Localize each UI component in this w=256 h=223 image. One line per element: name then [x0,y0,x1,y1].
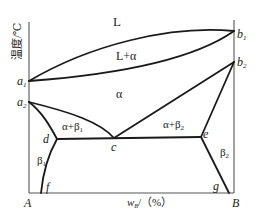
region-liquid-alpha: L+α [116,49,137,63]
corner-label-a: A [23,196,32,210]
point-a2-label: a2 [17,95,27,110]
point-g-label: g [213,179,219,193]
x-axis-label: wB/（%） [127,196,172,209]
region-alpha: α [116,87,123,101]
phase-diagram: 温度/℃ a1 a2 b1 b2 d c e f g L L+α α α+β1 … [0,0,256,223]
point-c-label: c [111,140,117,154]
y-axis-label: 温度/℃ [10,23,23,60]
point-f-label: f [46,180,51,194]
region-beta2: β2 [220,146,230,160]
corner-label-b: B [232,196,240,210]
point-a1-label: a1 [17,74,27,89]
point-e-label: e [203,127,209,141]
point-b2-label: b2 [237,55,247,70]
eutectoid-line [57,137,201,139]
point-b1-label: b1 [237,27,247,42]
region-beta1: β1 [37,154,47,168]
region-alpha-beta2: α+β2 [163,118,185,132]
region-liquid: L [113,14,121,29]
region-alpha-beta1: α+β1 [62,120,84,134]
point-d-label: d [43,132,50,146]
